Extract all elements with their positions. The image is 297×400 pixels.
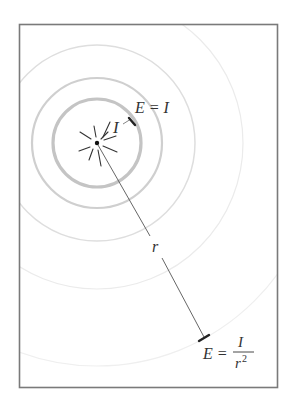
- far-tick-mark: [199, 335, 209, 341]
- light-source-dot: [95, 141, 99, 145]
- radius-line-lower: [162, 258, 204, 337]
- far-illuminance-formula: E = I r 2: [202, 334, 254, 371]
- source-intensity-label: I: [112, 118, 120, 137]
- ring-4: [0, 0, 243, 289]
- distance-label: r: [152, 238, 159, 255]
- far-formula-denominator: r: [235, 355, 241, 371]
- far-formula-exponent: 2: [242, 353, 247, 364]
- far-formula-lhs: E =: [202, 345, 228, 362]
- near-illuminance-label: E = I: [134, 99, 170, 116]
- far-formula-numerator: I: [237, 334, 244, 350]
- inverse-square-diagram: I E = I r E = I r 2: [0, 0, 297, 400]
- intensity-rings: [0, 0, 297, 366]
